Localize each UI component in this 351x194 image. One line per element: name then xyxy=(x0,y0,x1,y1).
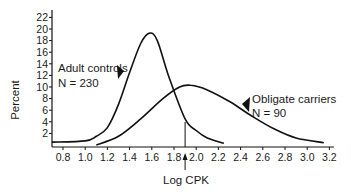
y-axis-title: Percent xyxy=(9,79,21,119)
x-tick-label: 2.0 xyxy=(189,151,204,163)
y-tick-label: 12 xyxy=(36,69,48,81)
y-tick-label: 20 xyxy=(36,23,48,35)
y-tick-label: 4 xyxy=(42,116,48,128)
x-ticks: 0.81.01.21.41.61.82.02.22.42.62.83.03.2 xyxy=(56,147,337,163)
chart: 246810121416182022 0.81.01.21.41.61.82.0… xyxy=(0,0,351,194)
y-tick-label: 8 xyxy=(42,92,48,104)
y-tick-label: 18 xyxy=(36,34,48,46)
x-tick-label: 1.6 xyxy=(144,151,159,163)
y-tick-label: 16 xyxy=(36,46,48,58)
y-tick-label: 14 xyxy=(36,58,48,70)
obligate-carriers-n: N = 90 xyxy=(252,107,286,119)
x-tick-label: 3.2 xyxy=(322,151,337,163)
x-tick-label: 1.2 xyxy=(100,151,115,163)
x-axis-title: Log CPK xyxy=(163,174,209,186)
y-tick-label: 6 xyxy=(42,104,48,116)
x-tick-label: 1.4 xyxy=(122,151,137,163)
x-tick-label: 1.0 xyxy=(78,151,93,163)
y-ticks: 246810121416182022 xyxy=(36,11,52,139)
x-tick-label: 2.6 xyxy=(255,151,270,163)
x-tick-label: 2.4 xyxy=(233,151,248,163)
x-tick-label: 2.2 xyxy=(211,151,226,163)
x-tick-label: 2.8 xyxy=(278,151,293,163)
x-tick-label: 3.0 xyxy=(300,151,315,163)
x-tick-label: 0.8 xyxy=(56,151,71,163)
y-tick-label: 22 xyxy=(36,11,48,23)
adult-controls-n: N = 230 xyxy=(58,77,99,89)
obligate-carriers-label: Obligate carriers xyxy=(252,93,337,105)
cutoff-arrow-icon xyxy=(183,153,188,170)
y-tick-label: 10 xyxy=(36,81,48,93)
y-tick-label: 2 xyxy=(42,127,48,139)
x-tick-label: 1.8 xyxy=(167,151,182,163)
